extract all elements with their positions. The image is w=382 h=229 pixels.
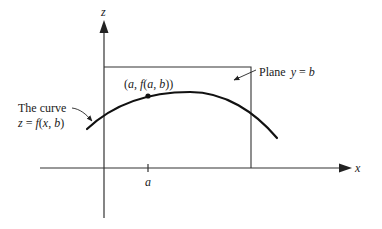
curve-annotation: The curve z = f(x, b) <box>17 101 92 130</box>
point-label: (a, f(a, b)) <box>124 77 173 91</box>
z-axis-arrow-icon <box>100 20 109 33</box>
z-axis: z <box>100 5 109 218</box>
curve-label-line1: The curve <box>18 101 66 115</box>
curve-z-f-x-b <box>87 92 277 138</box>
curve-leader-arrow-icon <box>72 108 92 121</box>
curve-label-line2: z = f(x, b) <box>17 116 64 130</box>
z-axis-label: z <box>100 5 106 19</box>
tick-a-label: a <box>145 175 151 189</box>
plane-label: Planey = b <box>259 65 315 79</box>
plane-leader-arrow-icon <box>234 70 256 80</box>
partial-derivative-diagram: z x a (a, f(a, b)) Planey = b The curve … <box>0 0 382 229</box>
x-axis: x a <box>40 161 361 189</box>
x-axis-arrow-icon <box>339 164 352 173</box>
x-axis-label: x <box>354 161 361 175</box>
point-a-fab <box>145 93 150 98</box>
